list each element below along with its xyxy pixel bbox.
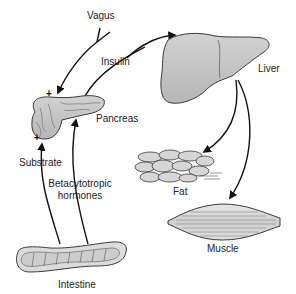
intestine-organ [17,242,127,272]
muscle-tissue [168,204,280,240]
betacytotropic-label-line2: hormones [45,190,115,201]
betacytotropic-label-line1: Betacytotropic [45,178,115,189]
liver-organ [161,33,269,103]
vagus-plus-sign: + [46,89,52,99]
muscle-label: Muscle [207,243,239,254]
fat-label: Fat [173,186,187,197]
pancreas-label: Pancreas [96,113,138,124]
vagus-label: Vagus [87,10,115,21]
insulin-label: Insulin [101,56,130,67]
substrate-plus-sign: + [34,133,40,143]
endocrine-pancreas-diagram: Vagus Insulin Liver Pancreas + + Substra… [0,0,296,294]
liver-to-fat-arrow [204,80,237,152]
pancreas-organ [32,96,105,139]
substrate-label: Substrate [19,157,62,168]
intestine-label: Intestine [58,279,96,290]
liver-label: Liver [258,63,280,74]
liver-to-muscle-arrow [230,80,250,198]
diagram-graphics [0,0,296,294]
fat-tissue [135,150,222,182]
